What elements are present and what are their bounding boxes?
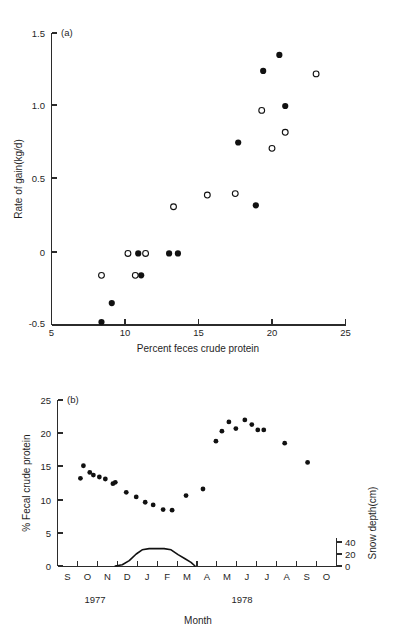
data-point-open <box>132 272 138 278</box>
panel-a-xtick-5: 25 <box>340 327 351 338</box>
panel-b-year-1977: 1977 <box>84 594 105 605</box>
data-point-filled <box>143 500 148 505</box>
panel-b-y-ticks-right <box>337 542 343 566</box>
snow-depth-curve <box>115 549 195 566</box>
panel-b-month-label-j-9: J <box>244 571 249 582</box>
panel-b-month-label-s-0: S <box>64 571 70 582</box>
panel-b-ytick-right-3: 0 <box>345 561 350 572</box>
panel-a-y-ticks <box>52 33 58 325</box>
panel-b-month-label-n-2: N <box>104 571 111 582</box>
data-point-filled <box>134 495 139 500</box>
data-point-filled <box>175 250 181 256</box>
panel-a-xtick-3: 15 <box>193 327 204 338</box>
data-point-filled <box>98 319 104 325</box>
data-point-filled <box>109 300 115 306</box>
panel-b-month-label-o-1: O <box>84 571 91 582</box>
panel-b-ytick-left-6: 0 <box>46 561 51 572</box>
panel-b-month-label-s-12: S <box>303 571 309 582</box>
panel-b-ytick-left-2: 20 <box>40 428 51 439</box>
panel-a-xtick-1: 5 <box>49 327 54 338</box>
panel-b: 25 20 15 10 5 0 40 20 0 SONDJFMAMJJASO (… <box>21 394 378 626</box>
data-point-filled <box>166 250 172 256</box>
data-point-open <box>171 204 177 210</box>
data-point-filled <box>220 429 225 434</box>
data-point-open <box>143 251 149 257</box>
data-point-filled <box>214 439 219 444</box>
data-point-open <box>269 145 275 151</box>
data-point-filled <box>151 503 156 508</box>
panel-b-month-label-a-7: A <box>204 571 211 582</box>
panel-b-month-ticks <box>58 561 337 566</box>
data-point-filled <box>161 507 166 512</box>
data-point-filled <box>282 441 287 446</box>
panel-b-month-labels: SONDJFMAMJJASO <box>64 571 330 582</box>
panel-a-x-axis-title: Percent feces crude protein <box>137 343 259 354</box>
data-point-filled <box>91 473 96 478</box>
panel-a-ytick-4: 0 <box>40 247 45 258</box>
data-point-filled <box>124 490 129 495</box>
figure-svg: 1.5 1.0 0.5 0 -0.5 5 10 15 20 25 (a) Per… <box>0 0 398 635</box>
panel-b-ytick-left-4: 10 <box>40 495 51 506</box>
data-point-open <box>204 192 210 198</box>
data-point-filled <box>113 480 118 485</box>
figure-container: 1.5 1.0 0.5 0 -0.5 5 10 15 20 25 (a) Per… <box>0 0 398 635</box>
panel-a-ytick-2: 1.0 <box>32 100 45 111</box>
panel-b-month-label-j-10: J <box>264 571 269 582</box>
data-point-filled <box>170 508 175 513</box>
panel-b-month-label-m-8: M <box>223 571 231 582</box>
data-point-open <box>125 251 131 257</box>
data-point-filled <box>81 463 86 468</box>
panel-a-xtick-4: 20 <box>267 327 278 338</box>
data-point-filled <box>184 493 189 498</box>
data-point-filled <box>282 103 288 109</box>
data-point-open <box>259 107 265 113</box>
panel-a-data-points <box>98 52 319 325</box>
data-point-filled <box>276 52 282 58</box>
data-point-open <box>282 129 288 135</box>
panel-b-data-points <box>78 418 310 513</box>
panel-b-ytick-right-2: 20 <box>345 549 356 560</box>
panel-b-month-label-o-13: O <box>323 571 330 582</box>
panel-b-x-axis-title: Month <box>184 615 212 626</box>
data-point-filled <box>97 475 102 480</box>
data-point-filled <box>249 422 254 427</box>
panel-b-ytick-left-1: 25 <box>40 395 51 406</box>
data-point-filled <box>261 427 266 432</box>
panel-b-label: (b) <box>67 394 79 405</box>
data-point-open <box>313 71 319 77</box>
data-point-filled <box>260 68 266 74</box>
panel-a-label: (a) <box>61 27 73 38</box>
panel-b-ytick-left-3: 15 <box>40 461 51 472</box>
data-point-filled <box>78 476 83 481</box>
panel-a: 1.5 1.0 0.5 0 -0.5 5 10 15 20 25 (a) Per… <box>13 27 351 354</box>
panel-b-month-label-j-4: J <box>145 571 150 582</box>
panel-b-y-axis-right-title: Snow depth(cm) <box>367 487 378 560</box>
data-point-filled <box>235 139 241 145</box>
panel-b-y-axis-left-title: % Fecal crude protein <box>21 434 32 531</box>
data-point-filled <box>103 477 108 482</box>
data-point-open <box>99 272 105 278</box>
panel-b-month-label-a-11: A <box>284 571 291 582</box>
panel-b-month-label-f-5: F <box>164 571 170 582</box>
data-point-open <box>232 191 238 197</box>
panel-b-y-ticks-left <box>58 400 64 566</box>
panel-a-x-ticks <box>52 319 346 325</box>
data-point-filled <box>253 202 259 208</box>
panel-a-ytick-5: -0.5 <box>29 318 45 329</box>
data-point-filled <box>135 250 141 256</box>
panel-a-xtick-2: 10 <box>120 327 131 338</box>
panel-b-ytick-right-1: 40 <box>345 537 356 548</box>
panel-a-y-axis-title: Rate of gain(kg/d) <box>13 139 24 219</box>
data-point-filled <box>138 272 144 278</box>
panel-b-ytick-left-5: 5 <box>46 528 51 539</box>
panel-b-month-label-d-3: D <box>124 571 131 582</box>
panel-b-month-label-m-6: M <box>183 571 191 582</box>
panel-b-year-1978: 1978 <box>231 594 252 605</box>
panel-a-ytick-3: 0.5 <box>32 173 45 184</box>
data-point-filled <box>255 427 260 432</box>
data-point-filled <box>201 487 206 492</box>
panel-a-ytick-1: 1.5 <box>32 28 45 39</box>
data-point-filled <box>226 420 231 425</box>
data-point-filled <box>242 418 247 423</box>
data-point-filled <box>305 460 310 465</box>
